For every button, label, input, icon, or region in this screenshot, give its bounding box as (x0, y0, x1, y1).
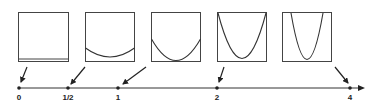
panel-2 (218, 13, 267, 62)
tick-dot (17, 86, 21, 90)
tick-dot (66, 86, 70, 90)
number-line (17, 85, 365, 91)
panel-0 (19, 13, 69, 62)
pointer-arrow-4 (335, 67, 348, 83)
tick-dot (215, 86, 219, 90)
tick-label: 1 (116, 93, 121, 102)
tick-dot (348, 86, 352, 90)
pointer-arrow-1 (123, 67, 146, 84)
diagram-canvas: 0 1/2 1 2 4 (0, 0, 379, 108)
parabola-curve (218, 13, 266, 59)
panel-half (86, 13, 135, 62)
parabola-curve (291, 13, 323, 60)
panel-4 (283, 13, 332, 62)
tick-label: 2 (215, 93, 220, 102)
parabola-curve (86, 48, 135, 57)
tick-label: 0 (17, 93, 22, 102)
pointer-arrows (21, 67, 348, 84)
pointer-arrow-2 (219, 67, 224, 82)
axis-arrowhead-icon (358, 85, 365, 91)
tick-label: 1/2 (62, 93, 74, 102)
tick-label: 4 (348, 93, 353, 102)
parabola-curve (152, 39, 201, 61)
panel-1 (152, 13, 201, 62)
tick-dot (116, 86, 120, 90)
pointer-arrow-half (71, 67, 85, 84)
tick-labels: 0 1/2 1 2 4 (17, 93, 353, 102)
pointer-arrow-0 (21, 67, 27, 82)
